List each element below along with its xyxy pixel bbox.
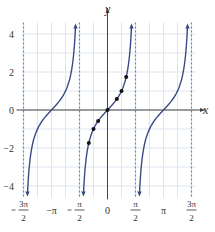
data-point xyxy=(120,89,124,93)
y-axis-label: y xyxy=(104,2,111,16)
x-tick-labels: 3π2−ππ20π2π3π2 xyxy=(12,199,197,223)
svg-text:2: 2 xyxy=(77,213,82,223)
y-tick-label: −2 xyxy=(3,143,14,154)
x-tick-label: π xyxy=(133,199,138,209)
x-tick-label: 3π xyxy=(187,199,197,209)
y-tick-label: 0 xyxy=(9,105,14,116)
x-tick-label: 0 xyxy=(105,205,110,216)
y-tick-label: 2 xyxy=(9,67,14,78)
x-axis-label: x xyxy=(202,103,209,117)
x-tick-label: −π xyxy=(46,205,57,216)
data-point xyxy=(106,108,110,112)
svg-text:2: 2 xyxy=(21,213,26,223)
data-point xyxy=(96,119,100,123)
y-tick-labels: 420−2−4 xyxy=(3,29,14,192)
svg-text:2: 2 xyxy=(133,213,138,223)
data-point xyxy=(91,127,95,131)
x-tick-label: 3π xyxy=(19,199,29,209)
y-tick-label: 4 xyxy=(9,29,14,40)
x-tick-label: π xyxy=(77,199,82,209)
data-point xyxy=(124,75,128,79)
data-point xyxy=(115,97,119,101)
x-tick-label: π xyxy=(161,205,166,216)
data-point xyxy=(87,141,91,145)
axes xyxy=(17,8,205,199)
svg-text:2: 2 xyxy=(189,213,194,223)
tangent-chart: 3π2−ππ20π2π3π2 420−2−4 x y xyxy=(0,0,215,232)
y-tick-label: −4 xyxy=(3,181,14,192)
